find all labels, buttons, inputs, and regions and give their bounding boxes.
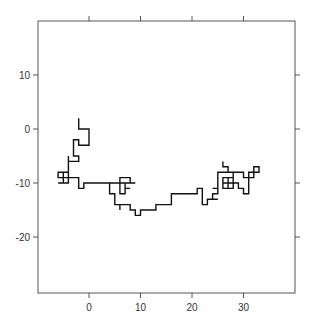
chart-canvas: 0102030 100-10-20 — [0, 0, 311, 324]
y-tick-label: -20 — [16, 232, 31, 243]
plot-frame — [38, 21, 295, 293]
y-tick-label: 10 — [19, 70, 31, 81]
walk-path — [58, 118, 259, 215]
y-tick-label: 0 — [24, 124, 30, 135]
x-tick-label: 10 — [135, 302, 147, 313]
x-tick-label: 20 — [186, 302, 198, 313]
y-tick-label: -10 — [16, 178, 31, 189]
x-tick-label: 30 — [238, 302, 250, 313]
y-axis: 100-10-20 — [16, 70, 300, 243]
walk-line — [58, 118, 259, 215]
x-axis: 0102030 — [86, 16, 249, 313]
walk-line — [110, 178, 136, 194]
x-tick-label: 0 — [86, 302, 92, 313]
